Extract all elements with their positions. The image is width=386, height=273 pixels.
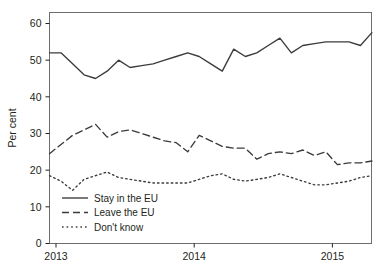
legend-label-1: Leave the EU <box>94 207 155 218</box>
legend-label-0: Stay in the EU <box>94 193 158 204</box>
chart-legend: Stay in the EULeave the EUDon't know <box>62 193 158 233</box>
y-tick-label: 0 <box>36 237 42 249</box>
x-tick-label: 2013 <box>44 250 68 262</box>
x-tick-label: 2014 <box>183 250 207 262</box>
x-axis-ticks: 201320142015 <box>44 244 344 262</box>
y-tick-label: 40 <box>30 91 42 103</box>
chart-canvas: 0102030405060 201320142015 Stay in the E… <box>0 0 386 273</box>
series-line-2 <box>50 172 372 190</box>
line-chart: 0102030405060 201320142015 Stay in the E… <box>0 0 386 273</box>
legend-label-2: Don't know <box>94 222 144 233</box>
y-tick-label: 20 <box>30 164 42 176</box>
x-tick-label: 2015 <box>321 250 345 262</box>
y-axis-ticks: 0102030405060 <box>30 17 50 249</box>
y-tick-label: 50 <box>30 54 42 66</box>
y-tick-label: 30 <box>30 127 42 139</box>
y-axis-title: Per cent <box>6 108 18 147</box>
series-line-0 <box>50 33 372 79</box>
data-series-group <box>50 33 372 191</box>
y-tick-label: 60 <box>30 17 42 29</box>
series-line-1 <box>50 124 372 164</box>
y-tick-label: 10 <box>30 201 42 213</box>
